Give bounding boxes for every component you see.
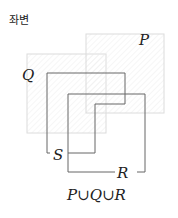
label-q: Q [22,66,34,84]
label-p: P [138,31,150,49]
label-s: S [53,146,63,164]
set-diagram: P Q R S P∪Q∪R [0,0,178,218]
caption-union: P∪Q∪R [66,186,126,204]
label-r: R [116,164,128,182]
